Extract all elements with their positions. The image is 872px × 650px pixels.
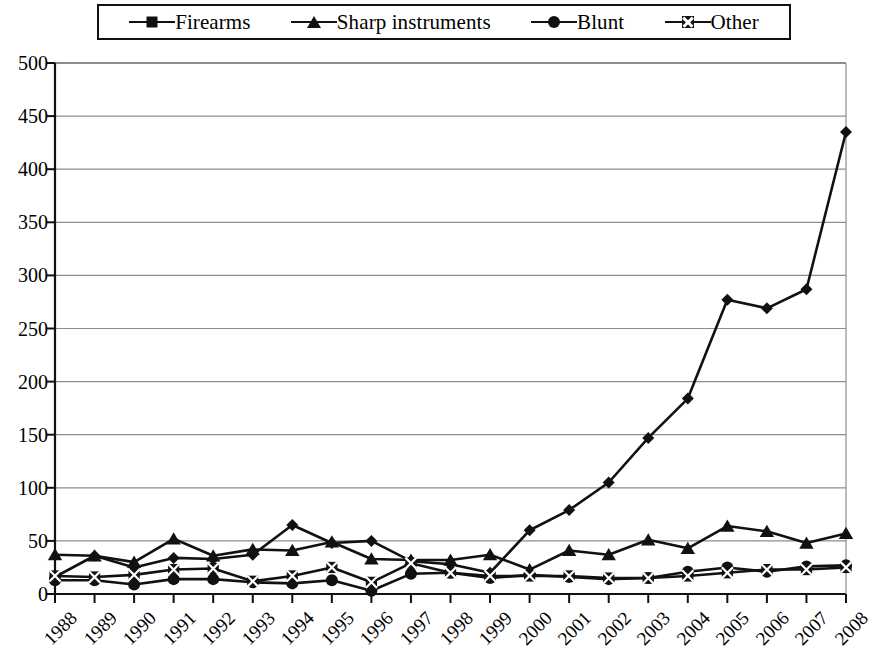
x-tick-label: 1988	[0, 608, 80, 650]
